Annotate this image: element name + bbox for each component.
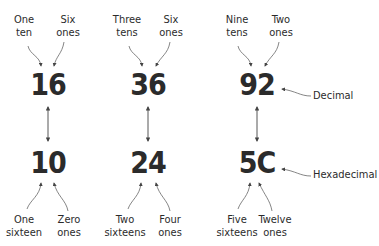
col2-top-right-label: Six ones [159, 13, 183, 39]
label-line: One [14, 13, 34, 26]
col2-bottom-left-label: Two sixteens [104, 213, 145, 239]
label-line: Two [269, 13, 293, 26]
hex-number-3: 5C [239, 148, 276, 178]
label-line: ones [56, 26, 80, 39]
col2-bottom-right-label: Four ones [158, 213, 182, 239]
label-line: Twelve [258, 213, 291, 226]
label-line: tens [113, 26, 141, 39]
col3-top-left-label: Nine tens [226, 13, 249, 39]
label-line: Nine [226, 13, 249, 26]
hex-number-2: 24 [130, 148, 166, 178]
label-line: sixteen [6, 226, 42, 239]
label-line: Zero [57, 213, 81, 226]
col3-bottom-left-label: Five sixteens [216, 213, 257, 239]
label-line: ones [158, 226, 182, 239]
label-line: ones [258, 226, 291, 239]
col1-top-left-label: One ten [14, 13, 34, 39]
label-line: Six [56, 13, 80, 26]
label-line: sixteens [216, 226, 257, 239]
hex-number-1: 10 [30, 148, 66, 178]
label-line: Five [216, 213, 257, 226]
decimal-number-2: 36 [130, 70, 166, 100]
label-line: One [6, 213, 42, 226]
decimal-row-label: Decimal [313, 89, 353, 102]
col1-bottom-left-label: One sixteen [6, 213, 42, 239]
col2-top-left-label: Three tens [113, 13, 141, 39]
label-line: sixteens [104, 226, 145, 239]
label-line: Three [113, 13, 141, 26]
col3-bottom-right-label: Twelve ones [258, 213, 291, 239]
hexadecimal-row-label: Hexadecimal [313, 168, 377, 181]
label-line: ones [159, 26, 183, 39]
label-line: ones [57, 226, 81, 239]
label-line: Six [159, 13, 183, 26]
label-line: Four [158, 213, 182, 226]
decimal-number-1: 16 [30, 70, 66, 100]
label-line: tens [226, 26, 249, 39]
col1-top-right-label: Six ones [56, 13, 80, 39]
col3-top-right-label: Two ones [269, 13, 293, 39]
label-line: ones [269, 26, 293, 39]
decimal-number-3: 92 [239, 70, 275, 100]
col1-bottom-right-label: Zero ones [57, 213, 81, 239]
label-line: Two [104, 213, 145, 226]
label-line: ten [14, 26, 34, 39]
